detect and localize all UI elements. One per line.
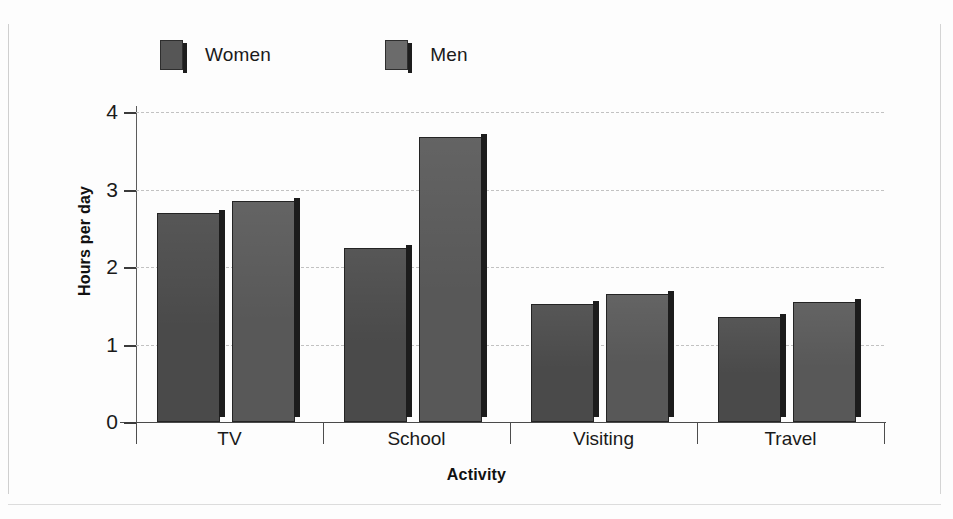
y-tick-mark	[124, 345, 136, 347]
x-axis-line	[120, 422, 886, 423]
y-tick-label: 4	[96, 100, 118, 124]
y-tick-label: 0	[96, 410, 118, 434]
y-tick-mark	[124, 422, 136, 424]
bar-travel-women	[718, 317, 781, 422]
x-tick-label-tv: TV	[136, 428, 323, 450]
y-tick-label: 1	[96, 333, 118, 357]
gridline	[136, 190, 884, 191]
bar-visiting-women	[531, 304, 594, 422]
plot-area	[136, 112, 884, 422]
bar-travel-men	[793, 302, 856, 422]
y-tick-label: 3	[96, 178, 118, 202]
bar-tv-men	[232, 201, 295, 422]
figure-canvas: Women Men Hours per day 01234 TVSchoolVi…	[0, 0, 953, 519]
x-axis-title: Activity	[0, 466, 953, 484]
x-tick-label-school: School	[323, 428, 510, 450]
bar-school-men	[419, 137, 482, 422]
x-tick-label-travel: Travel	[697, 428, 884, 450]
y-tick-label: 2	[96, 255, 118, 279]
bar-tv-women	[157, 213, 220, 422]
x-tick-label-visiting: Visiting	[510, 428, 697, 450]
bar-school-women	[344, 248, 407, 422]
y-tick-mark	[124, 190, 136, 192]
y-tick-mark	[124, 267, 136, 269]
y-axis-title: Hours per day	[76, 151, 94, 331]
y-tick-mark	[124, 112, 136, 114]
bar-visiting-men	[606, 294, 669, 422]
gridline	[136, 112, 884, 113]
chart-plot: Hours per day 01234 TVSchoolVisitingTrav…	[0, 0, 953, 519]
category-separator	[884, 422, 885, 444]
